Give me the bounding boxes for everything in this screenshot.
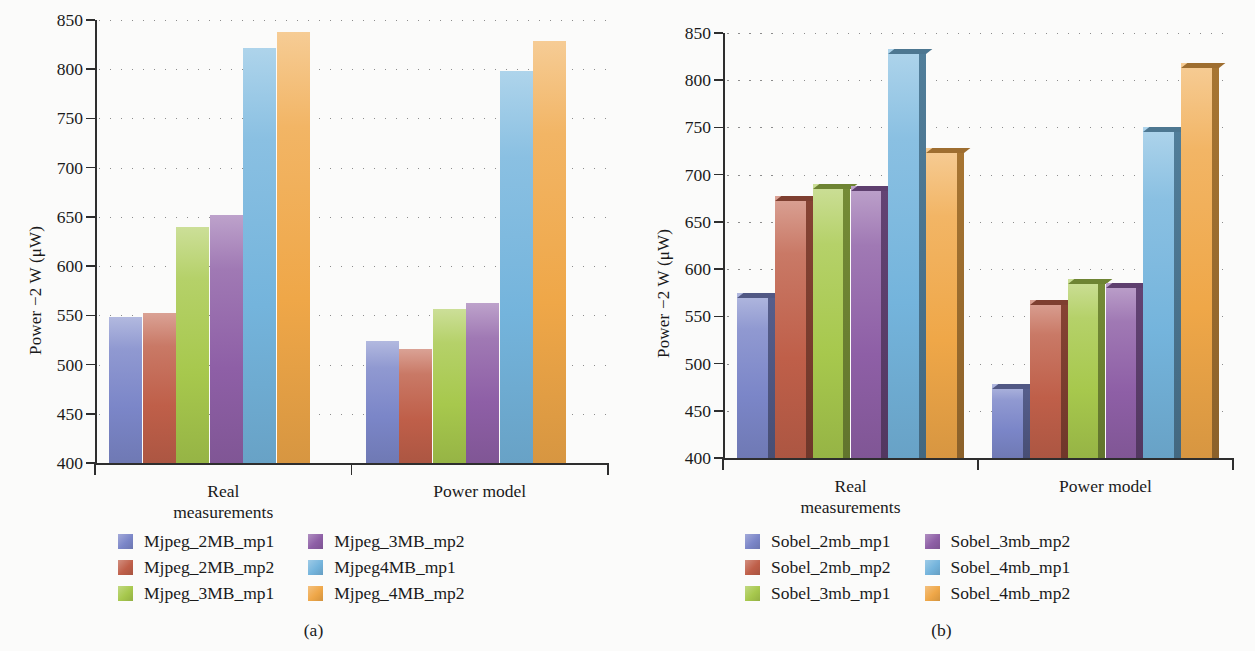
legend-label: Sobel_4mb_mp2 [951, 583, 1071, 604]
legend-item[interactable]: Mjpeg_4MB_mp2 [308, 583, 464, 604]
bar-top [926, 148, 970, 153]
x-category-label-line: Power model [352, 481, 609, 502]
bar-mjpeg-3mb-mp1-real [176, 227, 209, 463]
legend-swatch-mjpeg-2mb-mp1 [118, 534, 133, 549]
bar-face [399, 349, 432, 463]
panel-caption-b: (b) [628, 620, 1255, 641]
legend-swatch-mjpeg-4mb-mp2 [308, 586, 323, 601]
legend-item[interactable]: Mjpeg_2MB_mp1 [118, 531, 274, 552]
bar-face [992, 384, 1023, 458]
legend-item[interactable]: Sobel_3mb_mp2 [925, 531, 1071, 552]
bar-face [433, 309, 466, 463]
bar-face [533, 41, 566, 463]
legend-item[interactable]: Mjpeg_3MB_mp1 [118, 583, 274, 604]
bar-sobel-3mb-mp1-model [1068, 279, 1106, 458]
x-category-label: Realmeasurements [723, 476, 978, 517]
legend-swatch-sobel-3mb-mp2 [925, 534, 940, 549]
figure-root: Power −2 W (μW) 400450500550600650700750… [0, 0, 1255, 651]
x-category-label-line: Real [723, 476, 978, 497]
bar-side [1023, 388, 1030, 458]
legend-swatch-mjpeg-2mb-mp2 [118, 560, 133, 575]
bar-sobel-2mb-mp1-model [992, 384, 1030, 458]
legend-swatch-sobel-2mb-mp2 [745, 560, 760, 575]
legend-label: Sobel_2mb_mp1 [771, 531, 891, 552]
bar-side [1098, 283, 1105, 458]
bar-face [851, 186, 882, 458]
bar-face [243, 48, 276, 463]
bar-face [1106, 283, 1137, 458]
legend-item[interactable]: Sobel_3mb_mp1 [745, 583, 891, 604]
legend-swatch-sobel-4mb-mp1 [925, 560, 940, 575]
legend-item[interactable]: Sobel_4mb_mp1 [925, 557, 1071, 578]
bar-mjpeg4mb-mp1-real [243, 48, 276, 463]
x-category-label-line: measurements [723, 497, 978, 518]
legend-label: Sobel_3mb_mp2 [951, 531, 1071, 552]
bar-top [888, 49, 932, 54]
legend-label: Sobel_2mb_mp2 [771, 557, 891, 578]
legend-swatch-mjpeg4mb-mp1 [308, 560, 323, 575]
bar-face [1181, 63, 1212, 458]
chart-panel-a: Power −2 W (μW) 400450500550600650700750… [0, 0, 627, 651]
legend-label: Mjpeg_2MB_mp2 [144, 557, 274, 578]
legend-label: Mjpeg_4MB_mp2 [334, 583, 464, 604]
x-category-label: Realmeasurements [95, 481, 352, 522]
legend-label: Sobel_3mb_mp1 [771, 583, 891, 604]
bar-mjpeg-3mb-mp2-real [210, 215, 243, 463]
bar-sobel-4mb-mp1-model [1143, 127, 1181, 458]
bar-face [737, 293, 768, 458]
legend-item[interactable]: Sobel_4mb_mp2 [925, 583, 1071, 604]
bar-sobel-3mb-mp1-real [813, 184, 851, 458]
bar-face [813, 184, 844, 458]
panel-caption-a: (a) [0, 620, 627, 641]
legend-item[interactable]: Mjpeg4MB_mp1 [308, 557, 464, 578]
legend-label: Sobel_4mb_mp1 [951, 557, 1071, 578]
bar-mjpeg-2mb-mp1-model [366, 341, 399, 463]
legend-item[interactable]: Mjpeg_3MB_mp2 [308, 531, 464, 552]
bar-face [466, 303, 499, 464]
legend-swatch-mjpeg-3mb-mp2 [308, 534, 323, 549]
bar-side [957, 152, 964, 458]
bar-mjpeg-4mb-mp2-model [533, 41, 566, 463]
bar-face [500, 71, 533, 463]
legend-a: Mjpeg_2MB_mp1Mjpeg_3MB_mp2Mjpeg_2MB_mp2M… [118, 531, 465, 604]
bar-top [1181, 63, 1225, 68]
bar-sobel-2mb-mp2-model [1030, 300, 1068, 458]
bar-sobel-2mb-mp1-real [737, 293, 775, 458]
legend-label: Mjpeg4MB_mp1 [334, 557, 456, 578]
bar-mjpeg-3mb-mp2-model [466, 303, 499, 464]
legend-item[interactable]: Sobel_2mb_mp1 [745, 531, 891, 552]
bar-mjpeg4mb-mp1-model [500, 71, 533, 463]
bar-side [1212, 67, 1219, 458]
bar-side [768, 297, 775, 458]
bar-mjpeg-2mb-mp2-real [143, 313, 176, 463]
bar-face [143, 313, 176, 463]
legend-item[interactable]: Mjpeg_2MB_mp2 [118, 557, 274, 578]
legend-swatch-sobel-2mb-mp1 [745, 534, 760, 549]
legend-label: Mjpeg_2MB_mp1 [144, 531, 274, 552]
x-category-label-line: Power model [978, 476, 1233, 497]
bar-face [926, 148, 957, 458]
bar-face [1030, 300, 1061, 458]
bar-face [109, 317, 142, 463]
x-category-label-line: Real [95, 481, 352, 502]
legend-label: Mjpeg_3MB_mp2 [334, 531, 464, 552]
bar-face [366, 341, 399, 463]
bar-mjpeg-2mb-mp2-model [399, 349, 432, 463]
bar-sobel-3mb-mp2-model [1106, 283, 1144, 458]
legend-swatch-mjpeg-3mb-mp1 [118, 586, 133, 601]
bar-sobel-3mb-mp2-real [851, 186, 889, 458]
bar-mjpeg-3mb-mp1-model [433, 309, 466, 463]
x-category-label-line: measurements [95, 502, 352, 523]
legend-swatch-sobel-4mb-mp2 [925, 586, 940, 601]
bar-face [277, 32, 310, 463]
legend-swatch-sobel-3mb-mp1 [745, 586, 760, 601]
bar-side [1136, 287, 1143, 458]
bar-side [1061, 304, 1068, 458]
bar-mjpeg-4mb-mp2-real [277, 32, 310, 463]
bar-face [775, 196, 806, 458]
chart-panel-b: Power −2 W (μW) 400450500550600650700750… [628, 0, 1255, 651]
bar-sobel-4mb-mp2-model [1181, 63, 1219, 458]
legend-b: Sobel_2mb_mp1Sobel_3mb_mp2Sobel_2mb_mp2S… [745, 531, 1070, 604]
legend-item[interactable]: Sobel_2mb_mp2 [745, 557, 891, 578]
bar-face [176, 227, 209, 463]
